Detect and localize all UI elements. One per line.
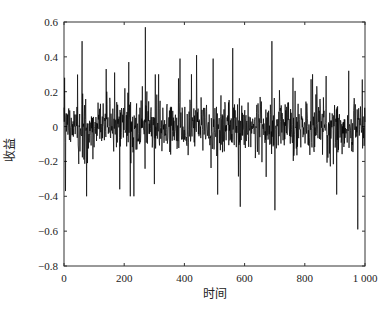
chart-canvas: 0.60.40.20−0.2−0.4−0.6−0.8 0200400600800… [0,0,391,312]
y-tick-label: −0.8 [38,260,58,272]
y-axis-title: 收益 [3,138,17,162]
y-tick-label: −0.4 [38,190,58,202]
axis-ticks [64,22,365,266]
y-tick-label: 0.2 [44,86,58,98]
y-tick-label: 0 [53,121,59,133]
plot-frame [64,22,365,266]
x-tick-label: 0 [61,272,67,284]
x-tick-labels: 02004006008001 000 [61,272,378,284]
y-tick-label: −0.6 [38,225,58,237]
x-tick-label: 400 [176,272,193,284]
x-tick-label: 1 000 [353,272,378,284]
x-tick-label: 200 [116,272,133,284]
x-tick-label: 800 [297,272,314,284]
x-axis-title: 时间 [203,287,227,301]
y-tick-label: 0.6 [44,16,58,28]
return-series-line [64,27,365,229]
y-tick-label: 0.4 [44,51,58,63]
y-tick-labels: 0.60.40.20−0.2−0.4−0.6−0.8 [38,16,58,272]
x-tick-label: 600 [236,272,253,284]
y-tick-label: −0.2 [38,155,58,167]
